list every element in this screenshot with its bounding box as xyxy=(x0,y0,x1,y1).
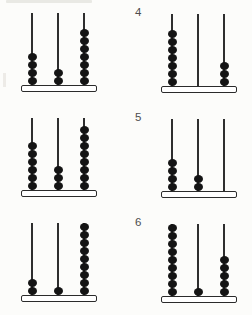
bead xyxy=(80,126,89,134)
problem-panel-top-left xyxy=(0,0,126,105)
bead xyxy=(194,183,203,191)
bead xyxy=(28,287,37,295)
bead xyxy=(168,288,177,296)
bead xyxy=(168,38,177,46)
bead xyxy=(220,280,229,288)
bead xyxy=(168,232,177,240)
bead xyxy=(28,150,37,158)
bead xyxy=(28,69,37,77)
bead xyxy=(28,61,37,69)
bead xyxy=(168,272,177,280)
bead xyxy=(54,77,63,85)
bead xyxy=(28,53,37,61)
abacus-base xyxy=(21,295,97,302)
problem-panel-bottom-right: 6 xyxy=(126,210,252,315)
bead xyxy=(80,69,89,77)
bead xyxy=(80,247,89,255)
bead xyxy=(28,166,37,174)
bead xyxy=(168,264,177,272)
abacus-base xyxy=(161,296,237,303)
bead xyxy=(80,53,89,61)
bead xyxy=(80,263,89,271)
bead xyxy=(80,166,89,174)
bead xyxy=(168,159,177,167)
bead xyxy=(54,182,63,190)
abacus-rod xyxy=(197,224,199,296)
abacus-rod xyxy=(57,223,59,295)
problem-number-label: 5 xyxy=(135,112,141,124)
bead xyxy=(220,264,229,272)
bead xyxy=(80,239,89,247)
bead xyxy=(28,174,37,182)
bead xyxy=(28,279,37,287)
bead xyxy=(80,134,89,142)
bead xyxy=(54,69,63,77)
bead xyxy=(80,279,89,287)
abacus-bottom-right xyxy=(161,221,237,303)
abacus-middle-left xyxy=(21,115,97,197)
abacus-base xyxy=(21,85,97,92)
bead xyxy=(168,183,177,191)
bead xyxy=(80,223,89,231)
bead xyxy=(80,45,89,53)
bead xyxy=(168,78,177,86)
bead xyxy=(220,62,229,70)
problem-number-label: 6 xyxy=(135,217,141,229)
bead xyxy=(28,182,37,190)
abacus-top-right xyxy=(161,11,237,93)
bead xyxy=(28,142,37,150)
abacus-base xyxy=(21,190,97,197)
problem-number-label: 4 xyxy=(135,7,141,19)
bead xyxy=(168,30,177,38)
problem-panel-middle-right: 5 xyxy=(126,105,252,210)
problem-panel-top-right: 4 xyxy=(126,0,252,105)
bead xyxy=(80,174,89,182)
bead xyxy=(28,77,37,85)
bead xyxy=(220,78,229,86)
bead xyxy=(80,77,89,85)
abacus-rod xyxy=(197,14,199,86)
bead xyxy=(168,46,177,54)
abacus-base xyxy=(161,86,237,93)
bead xyxy=(80,182,89,190)
bead xyxy=(80,255,89,263)
worksheet-page: 4 5 6 xyxy=(0,0,252,315)
bead xyxy=(168,175,177,183)
abacus-middle-right xyxy=(161,116,237,198)
problem-panel-bottom-left xyxy=(0,210,126,315)
bead xyxy=(54,287,63,295)
bead xyxy=(168,70,177,78)
bead xyxy=(168,280,177,288)
bead xyxy=(168,240,177,248)
bead xyxy=(54,174,63,182)
bead xyxy=(220,272,229,280)
bead xyxy=(168,256,177,264)
abacus-rod xyxy=(223,119,225,191)
bead xyxy=(54,166,63,174)
bead xyxy=(80,231,89,239)
bead xyxy=(80,142,89,150)
problem-panel-middle-left xyxy=(0,105,126,210)
bead xyxy=(220,70,229,78)
bead xyxy=(80,150,89,158)
bead xyxy=(80,61,89,69)
bead xyxy=(168,248,177,256)
bead xyxy=(168,62,177,70)
abacus-base xyxy=(161,191,237,198)
bead xyxy=(168,224,177,232)
bead xyxy=(168,167,177,175)
bead xyxy=(194,288,203,296)
bead xyxy=(80,287,89,295)
bead xyxy=(80,158,89,166)
abacus-bottom-left xyxy=(21,220,97,302)
bead xyxy=(220,256,229,264)
bead xyxy=(80,37,89,45)
bead xyxy=(28,158,37,166)
bead xyxy=(80,29,89,37)
bead xyxy=(220,288,229,296)
bead xyxy=(80,271,89,279)
bead xyxy=(194,175,203,183)
abacus-top-left xyxy=(21,10,97,92)
bead xyxy=(168,54,177,62)
